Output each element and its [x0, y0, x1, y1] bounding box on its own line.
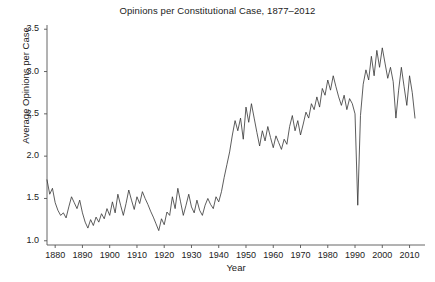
y-tick-label: 3.0	[9, 67, 39, 76]
y-tick-label: 2.5	[9, 109, 39, 118]
axis-lines	[47, 25, 425, 245]
chart-figure: Opinions per Constitutional Case, 1877–2…	[0, 0, 435, 282]
y-tick-label: 1.0	[9, 236, 39, 245]
plot-area	[0, 0, 435, 282]
data-series-line	[47, 48, 415, 231]
y-tick-label: 1.5	[9, 193, 39, 202]
y-tick-label: 3.5	[9, 24, 39, 33]
y-tick-label: 2.0	[9, 151, 39, 160]
x-tick-label: 2010	[390, 251, 430, 260]
